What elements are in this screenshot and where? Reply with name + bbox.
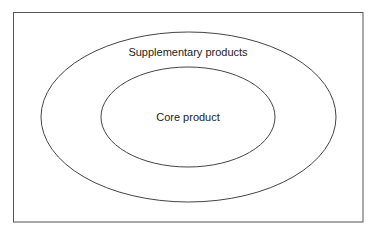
core-product-label: Core product <box>156 111 220 123</box>
nested-product-diagram: Supplementary products Core product <box>0 0 378 231</box>
supplementary-products-label: Supplementary products <box>128 46 248 58</box>
